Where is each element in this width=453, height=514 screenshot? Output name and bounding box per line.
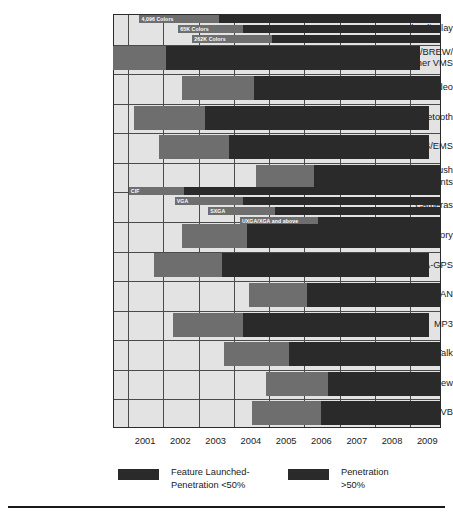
x-tick-label: 2009 [407, 436, 447, 446]
timeline-bar [266, 372, 441, 396]
timeline-bar [224, 342, 441, 366]
segment-penetration [166, 46, 420, 70]
segment-launched [113, 46, 166, 70]
timeline-bar [182, 224, 441, 248]
segment-penetration [205, 106, 429, 130]
x-tick-label: 2006 [301, 436, 341, 446]
timeline-bar: 262K Colors [192, 35, 441, 44]
x-tick-label: 2003 [196, 436, 236, 446]
segment-penetration [243, 313, 428, 337]
legend-label-line: Penetration [341, 466, 389, 479]
gridline-2001 [128, 15, 129, 427]
segment-penetration [272, 35, 441, 44]
segment-penetration [184, 187, 441, 196]
timeline-bar: SXGA [208, 207, 441, 216]
timeline-bar [154, 253, 429, 277]
legend-label: Penetration>50% [341, 466, 389, 491]
x-tick-label: 2008 [372, 436, 412, 446]
bar-label: VGA [177, 198, 189, 204]
bar-label: UXGA/XGA and above [242, 218, 298, 224]
segment-launched [154, 253, 223, 277]
timeline-bar [252, 401, 441, 425]
x-tick-label: 2001 [125, 436, 165, 446]
x-tick-label: 2005 [266, 436, 306, 446]
segment-launched [173, 313, 244, 337]
segment-launched [266, 372, 328, 396]
segment-launched [159, 135, 230, 159]
segment-launched [182, 76, 254, 100]
segment-launched [249, 283, 307, 307]
bar-label: SXGA [210, 208, 225, 214]
timeline-bar [113, 46, 420, 70]
segment-launched [224, 342, 289, 366]
chart-figure: Color displayJava/BREW/other VMSStreamin… [0, 0, 453, 514]
legend-label: Feature Launched-Penetration <50% [171, 466, 250, 491]
timeline-bar [182, 76, 441, 100]
timeline-bar [134, 106, 428, 130]
segment-penetration [321, 401, 441, 425]
legend-label-line: Penetration <50% [171, 479, 250, 492]
bar-label: 4,096 Colors [141, 16, 173, 22]
legend-label-line: Feature Launched- [171, 466, 250, 479]
x-tick-label: 2002 [160, 436, 200, 446]
footer-rule [8, 506, 445, 508]
segment-penetration [328, 372, 441, 396]
x-tick-label: 2004 [231, 436, 271, 446]
segment-penetration [307, 283, 441, 307]
legend-swatch [118, 469, 159, 480]
segment-penetration [229, 135, 428, 159]
timeline-bar [256, 165, 441, 189]
bar-label: CIF [131, 188, 140, 194]
segment-penetration [275, 207, 441, 216]
timeline-bar: CIF [129, 187, 441, 196]
segment-penetration [247, 224, 441, 248]
segment-penetration [222, 253, 428, 277]
gridline-2002 [163, 15, 164, 427]
segment-penetration [289, 342, 441, 366]
segment-launched [256, 165, 314, 189]
segment-penetration [243, 25, 441, 34]
segment-penetration [219, 15, 441, 24]
timeline-bar: 4,096 Colors [139, 15, 441, 24]
x-tick-label: 2007 [337, 436, 377, 446]
timeline-bar: 65K Colors [178, 25, 441, 34]
bar-label: 65K Colors [180, 26, 208, 32]
timeline-bar [249, 283, 441, 307]
segment-launched [182, 224, 247, 248]
segment-penetration [254, 76, 441, 100]
timeline-bar [159, 135, 429, 159]
chart-legend: Feature Launched-Penetration <50%Penetra… [113, 466, 453, 496]
segment-launched [134, 106, 205, 130]
legend-swatch [288, 469, 329, 480]
bar-label: 262K Colors [194, 36, 225, 42]
timeline-bar: VGA [175, 197, 441, 206]
segment-launched [252, 401, 321, 425]
timeline-bar [173, 313, 429, 337]
segment-penetration [243, 197, 441, 206]
segment-penetration [314, 165, 441, 189]
legend-label-line: >50% [341, 479, 389, 492]
